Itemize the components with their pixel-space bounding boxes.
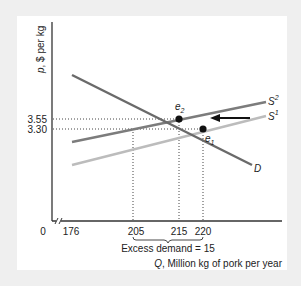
e1-label: e1	[205, 133, 215, 146]
x-tick-215: 215	[171, 226, 188, 237]
x-tick-220: 220	[195, 226, 212, 237]
x-tick-205: 205	[128, 226, 145, 237]
x-axis-label: Q, Million kg of pork per year	[154, 258, 283, 269]
reference-lines	[53, 119, 203, 221]
e2-label: e2	[175, 101, 185, 114]
s1-label: S1	[268, 109, 279, 122]
x-tick-0: 0	[40, 226, 46, 237]
equilibrium-point-e1	[199, 125, 206, 132]
excess-demand-label: Excess demand = 15	[121, 243, 215, 254]
supply-demand-chart: e2 e1 S2 S1 D p, $ per kg 3.55 3.30 0 17…	[0, 0, 301, 286]
supply-curve-s2	[72, 102, 266, 142]
equilibrium-point-e2	[175, 115, 182, 122]
d-label: D	[254, 163, 261, 174]
axis-break-icon	[55, 217, 62, 225]
y-tick-330: 3.30	[28, 124, 48, 135]
y-axis-label: p, $ per kg	[35, 26, 46, 74]
x-tick-176: 176	[63, 226, 80, 237]
s2-label: S2	[268, 94, 279, 107]
demand-curve-d	[72, 75, 252, 165]
